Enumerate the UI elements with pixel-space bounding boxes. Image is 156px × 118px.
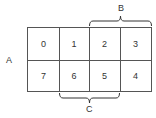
cell-1: 1 (59, 28, 89, 60)
label-b: B (118, 3, 124, 13)
cell-4: 4 (120, 60, 151, 91)
cell-6: 6 (59, 60, 89, 91)
cell-3: 3 (120, 28, 151, 60)
cell-0: 0 (28, 28, 59, 60)
cell-7: 7 (28, 60, 59, 91)
cell-2: 2 (89, 28, 120, 60)
label-a: A (6, 55, 12, 65)
grid: 0 1 2 3 7 6 5 4 (27, 27, 152, 92)
brace-b (89, 15, 152, 27)
cell-5: 5 (89, 60, 120, 91)
label-c: C (86, 104, 93, 114)
brace-c (59, 92, 121, 104)
